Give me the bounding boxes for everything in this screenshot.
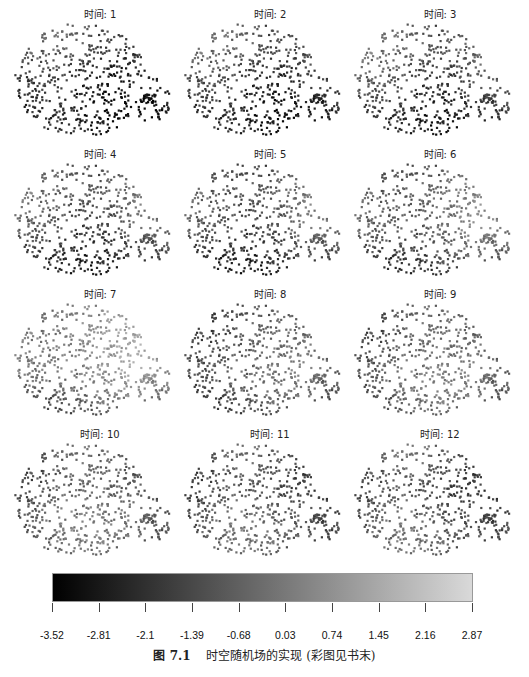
colorbar-tick <box>239 603 240 612</box>
colorbar-tick <box>332 603 333 612</box>
scatter-plot <box>352 18 517 138</box>
colorbar-tick-label: 0.03 <box>275 629 295 641</box>
scatter-panel-time-10: 时间: 10 <box>12 426 188 566</box>
colorbar-axis: -3.52-2.81-2.1-1.39-0.680.030.741.452.16… <box>0 603 529 643</box>
scatter-panel-time-3: 时间: 3 <box>352 6 528 146</box>
colorbar-tick <box>472 603 473 612</box>
colorbar-tick-label: -0.68 <box>227 629 251 641</box>
colorbar-tick <box>52 603 53 612</box>
scatter-plot <box>352 298 517 418</box>
colorbar-tick-label: -1.39 <box>180 629 204 641</box>
scatter-plot <box>352 158 517 278</box>
colorbar-tick-label: 2.16 <box>415 629 435 641</box>
scatter-panel-time-8: 时间: 8 <box>182 286 358 426</box>
scatter-plot <box>182 298 347 418</box>
colorbar-tick <box>425 603 426 612</box>
scatter-panel-time-4: 时间: 4 <box>12 146 188 286</box>
colorbar-tick <box>145 603 146 612</box>
colorbar-tick <box>99 603 100 612</box>
colorbar-tick <box>192 603 193 612</box>
scatter-panel-time-2: 时间: 2 <box>182 6 358 146</box>
scatter-panel-time-11: 时间: 11 <box>182 426 358 566</box>
scatter-panel-time-12: 时间: 12 <box>352 426 528 566</box>
scatter-plot <box>182 158 347 278</box>
caption-text: 时空随机场的实现 (彩图见书末) <box>206 649 375 663</box>
scatter-panel-time-6: 时间: 6 <box>352 146 528 286</box>
colorbar-tick <box>379 603 380 612</box>
figure-label: 图 7.1 <box>153 649 190 663</box>
colorbar-tick-label: -2.81 <box>87 629 111 641</box>
scatter-plot <box>12 158 177 278</box>
colorbar-tick <box>285 603 286 612</box>
scatter-panel-time-1: 时间: 1 <box>12 6 188 146</box>
colorbar-tick-label: -2.1 <box>136 629 154 641</box>
scatter-panel-time-7: 时间: 7 <box>12 286 188 426</box>
scatter-plot <box>182 18 347 138</box>
colorbar-tick-label: -3.52 <box>40 629 64 641</box>
scatter-panel-time-5: 时间: 5 <box>182 146 358 286</box>
colorbar-tick-label: 2.87 <box>462 629 482 641</box>
colorbar-tick-label: 1.45 <box>368 629 388 641</box>
scatter-plot <box>352 438 517 558</box>
scatter-plot <box>12 298 177 418</box>
colorbar-tick-label: 0.74 <box>322 629 342 641</box>
figure-caption: 图 7.1 时空随机场的实现 (彩图见书末) <box>0 646 529 663</box>
scatter-plot <box>182 438 347 558</box>
colorbar <box>52 573 473 602</box>
scatter-plot <box>12 18 177 138</box>
scatter-panel-time-9: 时间: 9 <box>352 286 528 426</box>
scatter-plot <box>12 438 177 558</box>
